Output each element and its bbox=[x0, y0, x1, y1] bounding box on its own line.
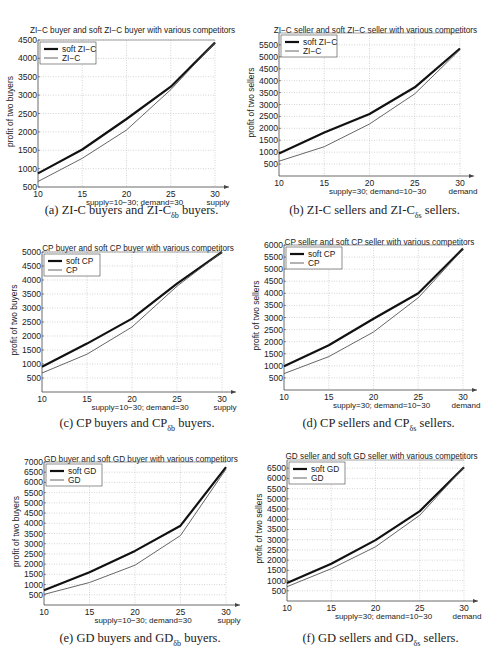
y-tick-label: 5500 bbox=[267, 484, 286, 494]
legend-label: GD bbox=[311, 473, 324, 483]
x-axis-end-label: demand bbox=[453, 612, 482, 621]
y-tick-label: 6000 bbox=[267, 473, 286, 483]
y-tick-label: 6500 bbox=[267, 463, 286, 473]
y-tick-label: 500 bbox=[272, 586, 287, 596]
y-tick-label: 2500 bbox=[267, 545, 286, 555]
y-tick-label: 4000 bbox=[267, 514, 286, 524]
y-axis-label: profit of two sellers bbox=[254, 494, 264, 564]
x-axis-label: supply=30; demand=10−30 bbox=[335, 612, 433, 621]
y-tick-label: 3000 bbox=[267, 535, 286, 545]
y-tick-label: 2000 bbox=[267, 555, 286, 565]
y-tick-label: 1500 bbox=[267, 565, 286, 575]
y-tick-label: 3500 bbox=[267, 524, 286, 534]
legend: soft GDGD bbox=[289, 462, 345, 484]
x-axis-arrow-icon bbox=[473, 599, 478, 603]
chart-title: GD seller and soft GD seller with variou… bbox=[285, 452, 477, 461]
y-tick-label: 4500 bbox=[267, 504, 286, 514]
x-tick-label: 10 bbox=[282, 603, 292, 613]
y-tick-label: 5000 bbox=[267, 494, 286, 504]
figure-caption: (f) GD sellers and GDδs sellers. bbox=[266, 631, 489, 648]
y-tick-label: 1000 bbox=[267, 576, 286, 586]
